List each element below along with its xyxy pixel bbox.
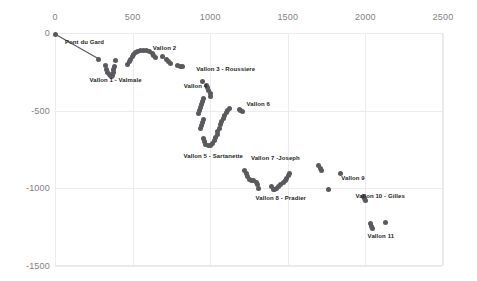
data-label: Vallon 2 bbox=[153, 45, 176, 51]
data-label: Vallon 8 - Pradier bbox=[256, 195, 307, 201]
data-label: Vallon 1 - Valmale bbox=[89, 77, 141, 83]
data-label: Vallon 9 bbox=[341, 175, 364, 181]
y-tick-label: -1000 bbox=[0, 183, 50, 193]
data-point bbox=[256, 186, 261, 191]
data-point bbox=[180, 64, 185, 69]
x-tick-label: 2000 bbox=[355, 12, 376, 22]
x-tick-label: 0 bbox=[52, 12, 57, 22]
data-label: Vallon 7 -Joseph bbox=[251, 155, 300, 161]
data-label: Vallon 4 bbox=[184, 83, 207, 89]
y-tick-label: 0 bbox=[0, 28, 50, 38]
data-label: Pont du Gard bbox=[65, 39, 104, 45]
data-point bbox=[227, 106, 232, 111]
x-tick-label: 1500 bbox=[277, 12, 298, 22]
x-tick-label: 500 bbox=[125, 12, 141, 22]
gridline-vertical bbox=[443, 33, 444, 265]
gridline-horizontal bbox=[55, 266, 442, 267]
data-point bbox=[168, 61, 173, 66]
data-label: Vallon 3 - Roussiere bbox=[196, 66, 255, 72]
y-tick-label: -500 bbox=[0, 106, 50, 116]
scatter-chart: 05001000150020002500 0-500-1000-1500 Pon… bbox=[0, 0, 477, 281]
plot-area: Pont du GardVallon 1 - ValmaleVallon 2Va… bbox=[55, 33, 443, 266]
data-label: Vallon 10 - Gilles bbox=[355, 193, 405, 199]
data-label: Vallon 6 bbox=[247, 101, 270, 107]
data-label: Vallon 11 bbox=[368, 233, 395, 239]
x-tick-label: 1000 bbox=[200, 12, 221, 22]
data-label: Vallon 5 - Sartanette bbox=[184, 153, 243, 159]
x-tick-label: 2500 bbox=[433, 12, 454, 22]
data-point bbox=[153, 55, 158, 60]
series-line bbox=[56, 35, 99, 60]
y-tick-label: -1500 bbox=[0, 261, 50, 271]
